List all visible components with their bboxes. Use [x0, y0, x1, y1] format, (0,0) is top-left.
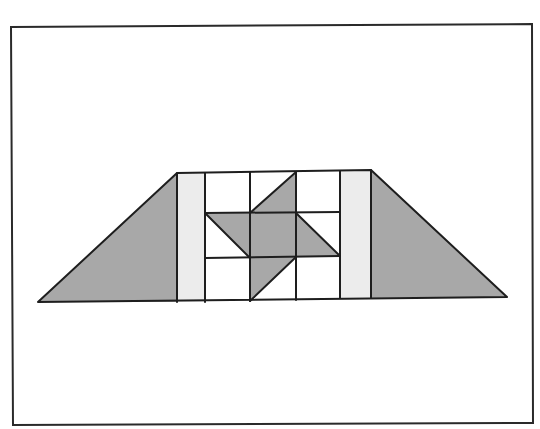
grid-row-top: [205, 212, 340, 213]
grid-row-bottom: [205, 256, 340, 258]
diagram-canvas: [0, 0, 540, 429]
left-sashing-strip: [177, 173, 205, 302]
center-square: [250, 213, 296, 258]
quilt-diagram: [0, 0, 540, 429]
right-sashing-strip: [340, 170, 371, 298]
